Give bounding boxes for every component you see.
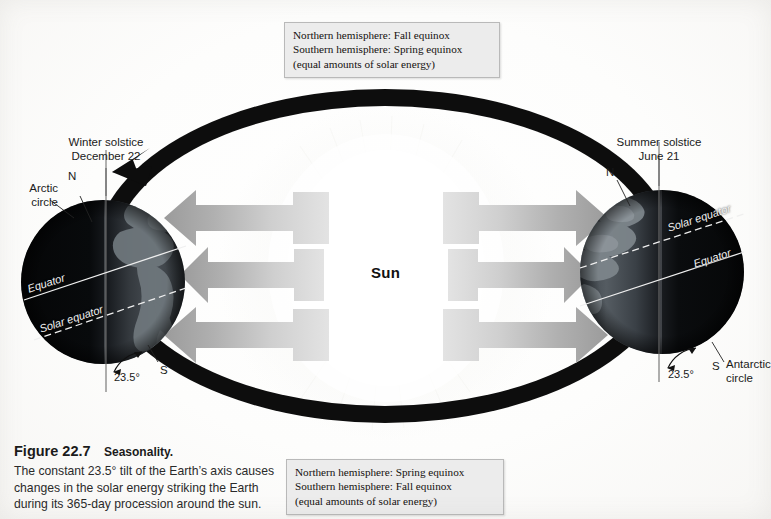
figure-caption-body: The constant 23.5° tilt of the Earth’s a… [14,463,282,513]
winter-solstice-line1: Winter solstice [34,136,178,150]
arctic-circle-label: Arctic circle [12,182,58,209]
summer-solstice-line1: Summer solstice [588,136,730,150]
callout-bottom-line1: Northern hemisphere: Spring equinox [295,465,495,479]
figure-body-line2: changes in the solar energy striking the… [14,480,282,497]
earth-right-tilt-angle-label: 23.5° [668,368,694,382]
figure-caption-heading: Figure 22.7 Seasonality. [14,442,282,460]
callout-top-line3: (equal amounts of solar energy) [293,57,491,71]
winter-solstice-label: Winter solstice December 22 [34,136,178,163]
arctic-circle-line2: circle [12,196,58,210]
figure-body-line1: The constant 23.5° tilt of the Earth’s a… [14,463,282,480]
sun-label: Sun [0,264,771,281]
callout-top-line1: Northern hemisphere: Fall equinox [293,28,491,42]
summer-solstice-line2: June 21 [588,150,730,164]
callout-bottom-line3: (equal amounts of solar energy) [295,494,495,508]
figure-body-line3: during its 365-day procession around the… [14,496,282,513]
figure-caption: Figure 22.7 Seasonality. The constant 23… [14,442,282,513]
antarctic-circle-line2: circle [726,372,771,386]
earth-right-north-pole-label: N [606,166,614,180]
earth-right-south-pole-label: S [712,360,720,374]
summer-solstice-label: Summer solstice June 21 [588,136,730,163]
earth-left-south-pole-label: S [160,364,168,378]
earth-left-tilt-angle-label: 23.5° [114,371,140,385]
antarctic-circle-label: Antarctic circle [726,358,771,385]
figure-title: Seasonality. [104,445,173,459]
winter-solstice-line2: December 22 [34,150,178,164]
callout-bottom-line2: Southern hemisphere: Fall equinox [295,479,495,493]
arctic-circle-line1: Arctic [12,182,58,196]
callout-top-equinox: Northern hemisphere: Fall equinox Southe… [284,22,500,78]
callout-top-line2: Southern hemisphere: Spring equinox [293,42,491,56]
antarctic-circle-line1: Antarctic [726,358,771,372]
callout-bottom-equinox: Northern hemisphere: Spring equinox Sout… [286,459,504,515]
earth-left-north-pole-label: N [68,170,76,184]
figure-canvas: Sun Northern hemisphere: Fall equinox So… [0,0,771,519]
figure-number: Figure 22.7 [14,443,91,459]
